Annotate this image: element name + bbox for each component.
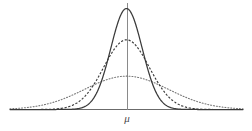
curve-small-variance	[10, 9, 243, 110]
mu-axis-label-container: μ	[0, 112, 252, 124]
curve-medium-variance	[10, 40, 243, 110]
curve-large-variance	[10, 76, 243, 109]
mu-axis-label: μ	[124, 112, 130, 124]
normal-distribution-figure: μ	[0, 0, 252, 131]
